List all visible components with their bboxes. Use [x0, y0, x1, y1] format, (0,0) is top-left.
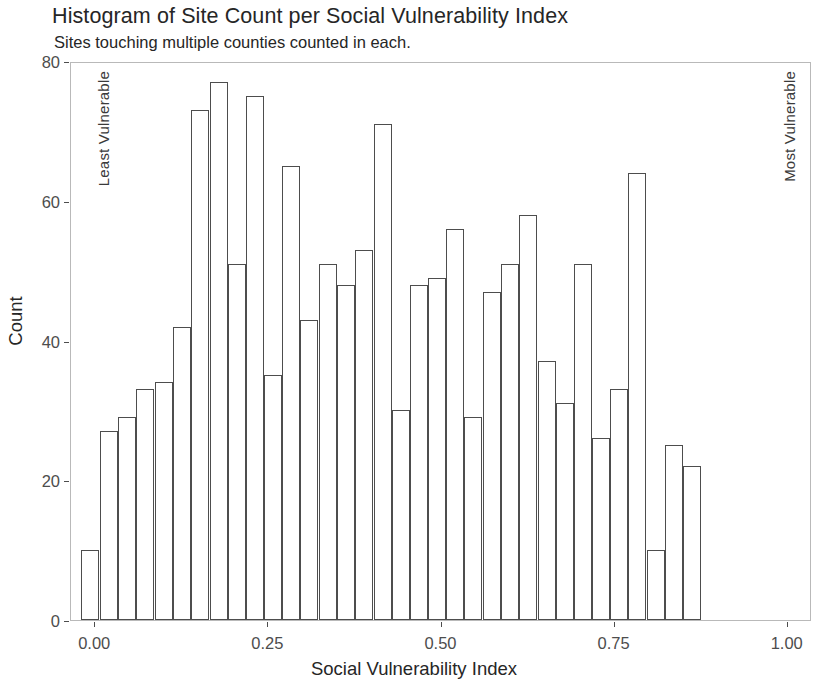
histogram-bar — [464, 417, 482, 620]
plot-panel: Least Vulnerable Most Vulnerable — [70, 62, 811, 621]
y-axis-tick-mark — [64, 62, 69, 63]
histogram-bar — [81, 550, 99, 620]
histogram-bar — [355, 250, 373, 620]
annotation-least-vulnerable: Least Vulnerable — [95, 71, 112, 186]
x-axis-tick-label: 0.25 — [251, 634, 283, 653]
y-axis-tick-label: 0 — [26, 612, 60, 631]
histogram-bar — [501, 264, 519, 620]
histogram-bar — [628, 173, 646, 620]
histogram-bar — [374, 124, 392, 620]
x-axis-tick-mark — [614, 622, 615, 627]
annotation-most-vulnerable: Most Vulnerable — [781, 71, 798, 182]
histogram-bar — [483, 292, 501, 620]
y-axis-tick-mark — [64, 481, 69, 482]
histogram-bar — [136, 389, 154, 620]
x-axis-tick-label: 0.50 — [424, 634, 456, 653]
histogram-bar — [410, 285, 428, 620]
bars-container — [71, 63, 810, 620]
x-axis-ticks: 0.000.250.500.751.00 — [70, 622, 811, 662]
histogram-bar — [538, 361, 556, 620]
histogram-bar — [610, 389, 628, 620]
histogram-bar — [173, 327, 191, 620]
histogram-bar — [556, 403, 574, 620]
histogram-bar — [574, 264, 592, 620]
histogram-bar — [118, 417, 136, 620]
chart-subtitle: Sites touching multiple counties counted… — [54, 33, 411, 52]
histogram-bar — [246, 96, 264, 620]
histogram-bar — [282, 166, 300, 620]
histogram-bar — [337, 285, 355, 620]
histogram-bar — [155, 382, 173, 620]
y-axis-tick-label: 20 — [26, 472, 60, 491]
histogram-bar — [392, 410, 410, 620]
histogram-bar — [319, 264, 337, 620]
x-axis-tick-mark — [94, 622, 95, 627]
x-axis-tick-mark — [441, 622, 442, 627]
histogram-bar — [228, 264, 246, 620]
histogram-bar — [300, 320, 318, 620]
x-axis-tick-mark — [267, 622, 268, 627]
x-axis-tick-label: 1.00 — [771, 634, 803, 653]
y-axis-tick-mark — [64, 621, 69, 622]
histogram-bar — [210, 82, 228, 620]
histogram-bar — [665, 445, 683, 620]
x-axis-tick-label: 0.75 — [598, 634, 630, 653]
x-axis-title: Social Vulnerability Index — [0, 658, 828, 680]
x-axis-tick-label: 0.00 — [78, 634, 110, 653]
histogram-bar — [100, 431, 118, 620]
histogram-bar — [519, 215, 537, 620]
histogram-bar — [191, 110, 209, 620]
histogram-bar — [683, 466, 701, 620]
histogram-bar — [428, 278, 446, 620]
histogram-bar — [592, 438, 610, 620]
histogram-bar — [264, 375, 282, 620]
x-axis-tick-mark — [787, 622, 788, 627]
y-axis-tick-label: 60 — [26, 192, 60, 211]
chart-figure: Histogram of Site Count per Social Vulne… — [0, 0, 828, 691]
histogram-bar — [647, 550, 665, 620]
chart-title: Histogram of Site Count per Social Vulne… — [52, 4, 568, 29]
y-axis-tick-mark — [64, 202, 69, 203]
y-axis-tick-label: 40 — [26, 332, 60, 351]
histogram-bar — [446, 229, 464, 620]
y-axis-tick-label: 80 — [26, 53, 60, 72]
y-axis-tick-mark — [64, 342, 69, 343]
y-axis-tick-labels: 020406080 — [22, 62, 60, 621]
